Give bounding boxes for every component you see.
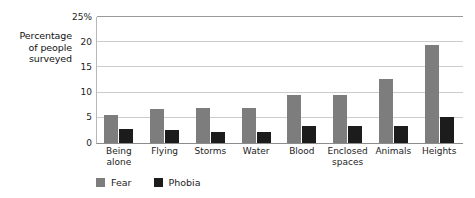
bars-layer bbox=[96, 17, 462, 143]
bar-fear-4[interactable] bbox=[287, 95, 301, 143]
x-tick-label-4: Blood bbox=[279, 146, 325, 157]
y-tick-label-25: 25% bbox=[58, 13, 92, 22]
bar-group bbox=[416, 17, 462, 143]
bar-fear-2[interactable] bbox=[196, 108, 210, 143]
y-tick-label-15: 15 bbox=[58, 63, 92, 72]
legend-label-phobia: Phobia bbox=[169, 177, 201, 188]
bar-group bbox=[279, 17, 325, 143]
bar-group bbox=[325, 17, 371, 143]
bar-phobia-4[interactable] bbox=[302, 126, 316, 143]
y-tick-label-10: 10 bbox=[58, 88, 92, 97]
bar-group bbox=[371, 17, 417, 143]
bar-phobia-3[interactable] bbox=[257, 132, 271, 143]
chart-legend: Fear Phobia bbox=[96, 177, 201, 188]
y-tick-label-0: 0 bbox=[58, 139, 92, 148]
x-tick-label-0: Beingalone bbox=[96, 146, 142, 167]
x-tick-label-5: Enclosedspaces bbox=[325, 146, 371, 167]
legend-swatch-phobia-icon bbox=[154, 178, 163, 187]
bar-phobia-2[interactable] bbox=[211, 132, 225, 143]
legend-swatch-fear-icon bbox=[96, 178, 105, 187]
legend-item-phobia[interactable]: Phobia bbox=[154, 177, 201, 188]
x-tick-label-3: Water bbox=[233, 146, 279, 157]
bar-phobia-5[interactable] bbox=[348, 126, 362, 143]
y-tick-label-5: 5 bbox=[58, 113, 92, 122]
bar-fear-3[interactable] bbox=[242, 108, 256, 143]
x-tick-label-7: Heights bbox=[416, 146, 462, 157]
y-tick-label-20: 20 bbox=[58, 38, 92, 47]
x-tick-label-1: Flying bbox=[142, 146, 188, 157]
bar-fear-6[interactable] bbox=[379, 79, 393, 143]
bar-group bbox=[188, 17, 234, 143]
bar-group bbox=[142, 17, 188, 143]
bar-fear-7[interactable] bbox=[425, 45, 439, 143]
legend-label-fear: Fear bbox=[111, 177, 132, 188]
y-axis-tick-labels: 0510152025% bbox=[58, 0, 92, 198]
bar-phobia-0[interactable] bbox=[119, 129, 133, 143]
legend-item-fear[interactable]: Fear bbox=[96, 177, 132, 188]
bar-fear-1[interactable] bbox=[150, 109, 164, 143]
bar-chart: Percentage of people surveyed 0510152025… bbox=[0, 0, 475, 198]
bar-group bbox=[233, 17, 279, 143]
bar-fear-0[interactable] bbox=[104, 115, 118, 143]
bar-phobia-6[interactable] bbox=[394, 126, 408, 143]
x-axis-category-labels: BeingaloneFlyingStormsWaterBloodEnclosed… bbox=[96, 146, 462, 174]
bar-fear-5[interactable] bbox=[333, 95, 347, 143]
bar-phobia-7[interactable] bbox=[440, 117, 454, 143]
x-tick-label-2: Storms bbox=[188, 146, 234, 157]
x-tick-label-6: Animals bbox=[371, 146, 417, 157]
bar-phobia-1[interactable] bbox=[165, 130, 179, 143]
bar-group bbox=[96, 17, 142, 143]
